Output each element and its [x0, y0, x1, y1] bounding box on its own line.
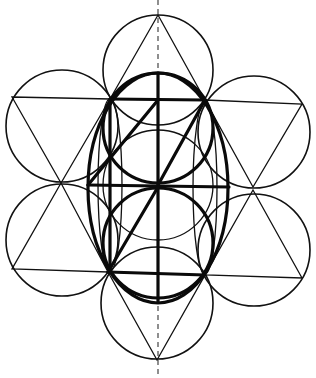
circle-upper-right [198, 76, 310, 188]
diagram-canvas [0, 0, 316, 378]
circle-lower-right [198, 194, 310, 306]
line-diagonal-upper-right [158, 100, 205, 185]
line-diagonal-lower [108, 187, 158, 272]
triangle-upper-right [205, 100, 302, 187]
geometry-diagram [0, 0, 316, 378]
triangle-lower-right [205, 190, 302, 278]
